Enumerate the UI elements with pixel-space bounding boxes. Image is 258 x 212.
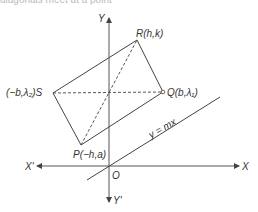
origin-label: O: [112, 170, 120, 181]
line-label: y = mx: [146, 115, 179, 140]
point-q-label: Q(b,λ₁): [167, 87, 198, 98]
diagonal-sq: [53, 92, 163, 93]
point-p-label: P(−h,a): [73, 149, 106, 160]
x-axis-label: X: [241, 161, 249, 172]
y-negative-label: Y': [113, 195, 123, 206]
point-s-label: (−b,λ₂)S: [6, 87, 43, 98]
coordinate-diagram: Y Y' X X' O y = mx R(h,k) Q(b,λ₁) (−b,λ₂…: [0, 0, 258, 212]
x-negative-label: X': [24, 161, 35, 172]
y-axis-label: Y: [98, 13, 106, 24]
point-q-marker: [161, 90, 165, 94]
point-r-label: R(h,k): [136, 28, 163, 39]
